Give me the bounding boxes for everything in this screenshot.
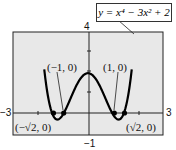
annotation-pos-sqrt2: (√2, 0) bbox=[126, 122, 156, 133]
annotation-neg-one: (−1, 0) bbox=[47, 62, 77, 73]
x-max-label: 3 bbox=[166, 108, 172, 118]
y-max-label: 4 bbox=[84, 22, 90, 32]
annotation-neg-sqrt2: (−√2, 0) bbox=[15, 122, 51, 133]
annotation-pos-one: (1, 0) bbox=[103, 62, 127, 73]
equation-label: y = x⁴ − 3x² + 2 bbox=[96, 3, 172, 22]
y-min-label: −1 bbox=[84, 139, 95, 149]
x-min-label: −3 bbox=[0, 108, 11, 118]
plot-frame bbox=[13, 32, 163, 135]
